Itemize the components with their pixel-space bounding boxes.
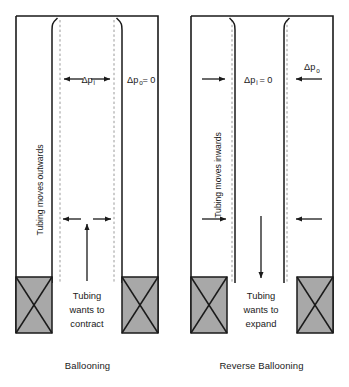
outer-pressure-label: Δp o = 0 xyxy=(127,75,155,87)
outer-pressure-suffix: = 0 xyxy=(142,75,155,85)
axial-note-line-3: contract xyxy=(70,318,104,329)
inner-pressure-subscript: i xyxy=(93,79,94,86)
outer-pressure-label: Δp o xyxy=(304,62,320,74)
axial-note-line-1: Tubing xyxy=(73,290,101,301)
axial-note-line-2: wants to xyxy=(69,304,105,315)
outer-pressure-subscript: o xyxy=(316,67,320,74)
caption-reverse-ballooning: Reverse Ballooning xyxy=(174,360,349,371)
axial-note-line-2: wants to xyxy=(243,304,279,315)
axial-note-line-1: Tubing xyxy=(247,290,275,301)
inner-pressure-subscript: i xyxy=(256,79,257,86)
ballooning-svg: Δp i Δp o = 0 Tubing moves outwards Tubi… xyxy=(0,0,175,387)
axial-note-line-3: expand xyxy=(246,318,277,329)
inner-pressure-delta-p: Δp xyxy=(244,75,255,85)
tubing-movement-label: Tubing moves inwards xyxy=(213,132,223,218)
caption-ballooning: Ballooning xyxy=(0,360,175,371)
tubing-wall-right xyxy=(117,18,123,283)
panel-reverse-ballooning: Δp i = 0 Δp o Tubing moves inwards Tubin… xyxy=(174,0,349,387)
packer-block-left xyxy=(16,277,52,333)
inner-pressure-label: Δp i xyxy=(81,75,94,87)
tubing-wall-left xyxy=(52,18,58,283)
inner-pressure-label: Δp i = 0 xyxy=(244,75,272,87)
axial-note: Tubing wants to expand xyxy=(243,290,279,329)
panel-ballooning: Δp i Δp o = 0 Tubing moves outwards Tubi… xyxy=(0,0,175,387)
inner-pressure-suffix: = 0 xyxy=(259,75,272,85)
reverse-ballooning-svg: Δp i = 0 Δp o Tubing moves inwards Tubin… xyxy=(174,0,349,387)
packer-block-left xyxy=(191,277,227,333)
axial-note: Tubing wants to contract xyxy=(69,290,105,329)
outer-pressure-delta-p: Δp xyxy=(127,75,138,85)
packer-block-right xyxy=(122,277,158,333)
tubing-movement-label: Tubing moves outwards xyxy=(35,145,45,236)
inner-pressure-delta-p: Δp xyxy=(81,75,92,85)
outer-pressure-delta-p: Δp xyxy=(304,62,315,72)
reverse-ballooning-drawing: Δp i = 0 Δp o Tubing moves inwards Tubin… xyxy=(174,0,349,387)
ballooning-drawing: Δp i Δp o = 0 Tubing moves outwards Tubi… xyxy=(0,0,175,387)
packer-block-right xyxy=(297,277,333,333)
